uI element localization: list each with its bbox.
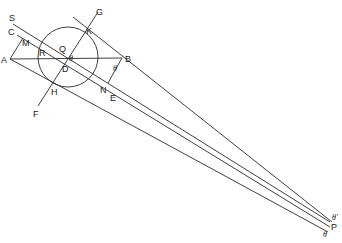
label-A: A	[1, 55, 7, 65]
label-theta-prime-P: θ'	[332, 213, 338, 222]
label-theta-B: θ	[113, 64, 117, 73]
label-M: M	[22, 38, 30, 48]
geometry-diagram: S C M A R Q D θ K G B θ N E H F θ' P θ	[0, 0, 342, 243]
line-A-to-B	[10, 58, 122, 59]
label-Q: Q	[59, 44, 66, 54]
label-K: K	[86, 26, 92, 36]
label-B: B	[125, 54, 131, 64]
label-H: H	[51, 87, 58, 97]
label-C: C	[8, 27, 15, 37]
line-K-B-to-P	[73, 17, 332, 222]
label-N: N	[100, 85, 107, 95]
label-theta-D: θ	[69, 54, 73, 63]
label-P: P	[331, 222, 337, 232]
line-A-to-P	[10, 59, 328, 232]
circle	[38, 27, 98, 87]
label-R: R	[39, 48, 46, 58]
label-theta-P: θ	[323, 230, 327, 239]
label-F: F	[33, 109, 39, 119]
label-D: D	[62, 64, 69, 74]
label-G: G	[96, 7, 103, 17]
label-E: E	[110, 93, 116, 103]
label-S: S	[9, 13, 15, 23]
